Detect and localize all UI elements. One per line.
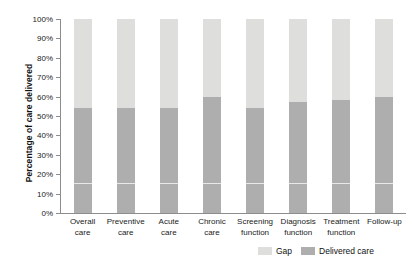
y-axis-tick (56, 116, 61, 117)
bar-segment-delivered-care (203, 97, 221, 213)
legend-swatch (301, 247, 315, 255)
x-axis-line (60, 213, 406, 214)
legend-item[interactable]: Delivered care (301, 246, 374, 256)
bar-segment-gap (160, 19, 178, 108)
x-axis-category-label: Follow-up (356, 216, 412, 227)
bar-segment-gap (117, 19, 135, 108)
x-axis-category-label-line: function (313, 227, 369, 238)
bar-segment-delivered-care (117, 108, 135, 213)
legend-label: Delivered care (319, 246, 374, 256)
chart-legend: GapDelivered care (258, 246, 374, 256)
y-axis-labels: 100%90%80%70%60%50%40%30%20%10%0% (17, 19, 53, 213)
bar-segment-gap (375, 19, 393, 97)
y-axis-tick-label: 90% (19, 34, 53, 43)
y-axis-tick-label: 40% (19, 131, 53, 140)
bar-subdivision-line (246, 183, 264, 184)
y-axis-tick-label: 70% (19, 73, 53, 82)
y-axis-tick-label: 50% (19, 112, 53, 121)
bar-subdivision-line (375, 183, 393, 184)
stacked-bar-chart: Percentage of care delivered 100%90%80%7… (0, 0, 414, 272)
y-axis-tick-label: 80% (19, 53, 53, 62)
bar-segment-gap (74, 19, 92, 108)
y-axis-tick-label: 20% (19, 170, 53, 179)
bar-subdivision-line (117, 183, 135, 184)
legend-swatch (258, 247, 272, 255)
y-axis-tick (56, 213, 61, 214)
y-axis-tick (56, 97, 61, 98)
y-axis-tick (56, 38, 61, 39)
bar-subdivision-line (160, 183, 178, 184)
y-axis-tick (56, 19, 61, 20)
y-axis-tick-label: 10% (19, 189, 53, 198)
y-axis-tick (56, 155, 61, 156)
y-axis-tick-label: 100% (19, 15, 53, 24)
y-axis-tick-label: 0% (19, 209, 53, 218)
bar-segment-gap (203, 19, 221, 97)
y-axis-tick (56, 58, 61, 59)
y-axis-tick (56, 135, 61, 136)
y-axis-tick (56, 77, 61, 78)
y-axis-tick (56, 194, 61, 195)
bar-subdivision-line (332, 183, 350, 184)
y-axis-tick-label: 60% (19, 92, 53, 101)
bar-segment-delivered-care (246, 108, 264, 213)
bar-segment-delivered-care (289, 102, 307, 213)
bar-subdivision-line (203, 183, 221, 184)
bar-segment-gap (289, 19, 307, 102)
legend-item[interactable]: Gap (258, 246, 292, 256)
y-axis-tick (56, 174, 61, 175)
legend-label: Gap (276, 246, 292, 256)
bar-subdivision-line (289, 183, 307, 184)
y-axis-tick-label: 30% (19, 150, 53, 159)
plot-area (61, 19, 406, 213)
bar-segment-delivered-care (332, 100, 350, 213)
bar-segment-delivered-care (74, 108, 92, 213)
bar-segment-delivered-care (160, 108, 178, 213)
bar-segment-gap (246, 19, 264, 108)
bar-subdivision-line (74, 183, 92, 184)
bar-segment-delivered-care (375, 97, 393, 213)
x-axis-category-label-line: Follow-up (356, 216, 412, 227)
bar-segment-gap (332, 19, 350, 100)
x-axis-labels: OverallcarePreventivecareAcutecareChroni… (61, 216, 406, 246)
